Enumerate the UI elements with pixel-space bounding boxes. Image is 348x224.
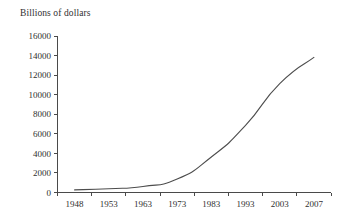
y-tick-label: 0: [47, 188, 52, 198]
y-tick-label: 12000: [29, 70, 52, 80]
x-tick-label: 1983: [202, 199, 221, 209]
x-tick-label: 1993: [237, 199, 256, 209]
x-tick-label: 1953: [100, 199, 119, 209]
x-tick-label: 2003: [271, 199, 290, 209]
y-tick-label: 8000: [33, 109, 52, 119]
x-tick-label: 2007: [305, 199, 324, 209]
chart-container: Billions of dollars 02000400060008000100…: [0, 0, 348, 224]
y-tick-label: 2000: [33, 168, 52, 178]
x-tick-label: 1973: [168, 199, 187, 209]
y-tick-group: 0200040006000800010000120001400016000: [29, 31, 58, 198]
x-tick-group: 19481953196319731983199320032007: [58, 193, 332, 209]
y-tick-label: 16000: [29, 31, 52, 41]
y-tick-label: 14000: [29, 51, 52, 61]
x-tick-label: 1948: [66, 199, 85, 209]
y-tick-label: 6000: [33, 129, 52, 139]
series-line-billions-of-dollars: [75, 57, 314, 189]
y-tick-label: 4000: [33, 149, 52, 159]
y-tick-label: 10000: [29, 90, 52, 100]
x-tick-label: 1963: [134, 199, 153, 209]
line-chart-plot: 0200040006000800010000120001400016000 19…: [0, 0, 348, 224]
